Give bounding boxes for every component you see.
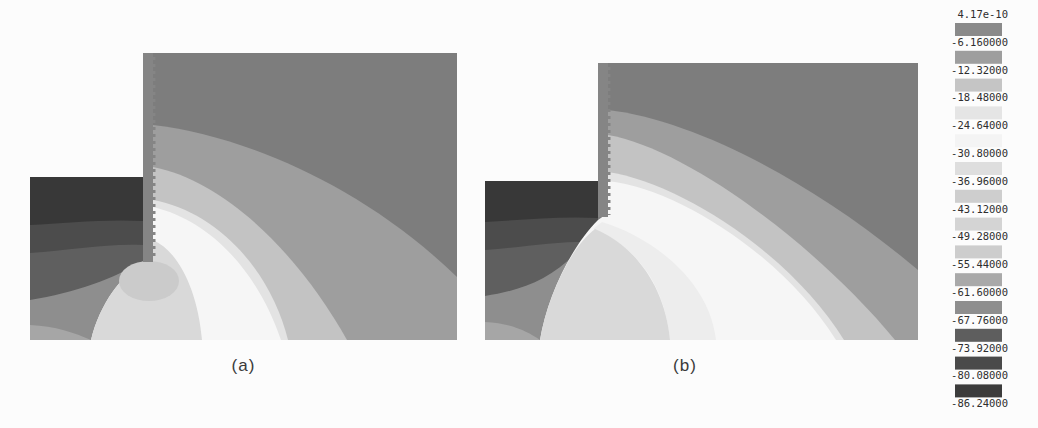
colorbar-swatch-0	[955, 23, 1002, 36]
colorbar-label-0: 4.17e-10	[957, 8, 1008, 20]
colorbar-label-13: -80.08000	[951, 369, 1008, 381]
colorbar-swatch-2	[955, 79, 1002, 92]
colorbar-swatch-6	[955, 190, 1002, 203]
panel-a-contour-plot	[30, 53, 457, 340]
colorbar: 4.17e-10 -6.160000 -12.32000 -18.48000 -…	[938, 2, 1012, 418]
colorbar-label-14: -86.24000	[951, 397, 1008, 409]
colorbar-label-6: -36.96000	[951, 175, 1008, 187]
colorbar-swatch-9	[955, 273, 1002, 286]
colorbar-swatch-4	[955, 134, 1002, 147]
colorbar-swatch-10	[955, 301, 1002, 314]
colorbar-swatch-3	[955, 106, 1002, 119]
colorbar-label-12: -73.92000	[951, 342, 1008, 354]
colorbar-swatch-13	[955, 384, 1002, 397]
panel-b-caption: (b)	[485, 356, 885, 378]
colorbar-label-10: -61.60000	[951, 286, 1008, 298]
colorbar-swatch-5	[955, 162, 1002, 175]
a-toe-dome-inner	[119, 261, 179, 301]
colorbar-swatch-7	[955, 218, 1002, 231]
colorbar-swatch-12	[955, 357, 1002, 370]
colorbar-label-5: -30.80000	[951, 147, 1008, 159]
colorbar-label-11: -67.76000	[951, 314, 1008, 326]
colorbar-label-3: -18.48000	[951, 91, 1008, 103]
a-wall	[143, 53, 153, 262]
colorbar-label-4: -24.64000	[951, 119, 1008, 131]
colorbar-swatch-1	[955, 51, 1002, 64]
colorbar-swatch-11	[955, 329, 1002, 342]
colorbar-label-2: -12.32000	[951, 64, 1008, 76]
b-wall	[598, 63, 608, 217]
colorbar-swatch-8	[955, 245, 1002, 258]
colorbar-label-9: -55.44000	[951, 258, 1008, 270]
colorbar-label-1: -6.160000	[951, 36, 1008, 48]
colorbar-label-7: -43.12000	[951, 203, 1008, 215]
panel-b-contour-plot	[485, 63, 918, 340]
colorbar-label-8: -49.28000	[951, 230, 1008, 242]
panel-a-caption: (a)	[30, 356, 457, 378]
